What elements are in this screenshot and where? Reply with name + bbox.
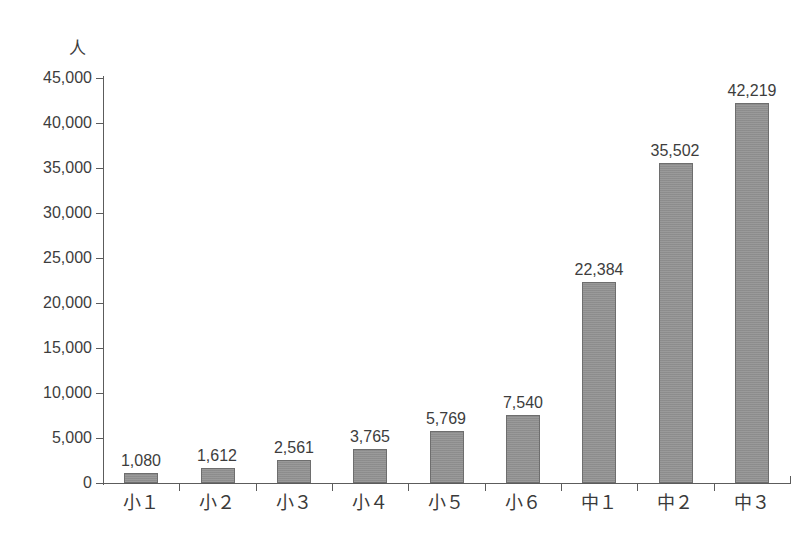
- x-axis-label: 小２: [179, 492, 255, 514]
- bar-value-label: 1,080: [103, 452, 179, 469]
- x-axis-line: [103, 483, 791, 484]
- bar: [430, 431, 464, 483]
- y-axis-unit-label: 人: [62, 38, 92, 58]
- x-axis-label: 小５: [408, 492, 484, 514]
- x-axis-tick: [561, 484, 562, 491]
- x-axis-end-tick: [790, 476, 791, 484]
- y-axis-tick-label-text: 15,000: [22, 340, 92, 356]
- y-axis-tick: [96, 258, 103, 259]
- bar: [277, 460, 311, 483]
- y-axis-tick: [96, 438, 103, 439]
- y-axis-tick-label-text: 20,000: [22, 295, 92, 311]
- y-axis-tick-label-text: 5,000: [22, 430, 92, 446]
- y-axis-tick-label-text: 10,000: [22, 385, 92, 401]
- x-axis-tick: [408, 484, 409, 491]
- x-axis-label: 中２: [637, 492, 713, 514]
- y-axis-tick-label: 35,000: [20, 160, 92, 176]
- bar-value-label: 22,384: [561, 261, 637, 278]
- y-axis-tick-label-text: 40,000: [22, 115, 92, 131]
- y-axis-tick-label: 25,000: [20, 250, 92, 266]
- y-axis-tick-label: 30,000: [20, 205, 92, 221]
- y-axis-tick: [96, 303, 103, 304]
- y-axis-tick-label-text: 35,000: [22, 160, 92, 176]
- y-axis-tick: [96, 483, 103, 484]
- x-axis-tick: [332, 484, 333, 491]
- y-axis-tick-label: 40,000: [20, 115, 92, 131]
- bar: [353, 449, 387, 483]
- x-axis-label: 小４: [332, 492, 408, 514]
- x-axis-label: 中３: [714, 492, 790, 514]
- y-axis-tick: [96, 393, 103, 394]
- y-axis-tick-label: 5,000: [20, 430, 92, 446]
- x-axis-tick: [179, 484, 180, 491]
- y-axis-tick-label: 10,000: [20, 385, 92, 401]
- y-axis-tick: [96, 78, 103, 79]
- y-axis-tick-label-text: 0: [22, 475, 92, 491]
- bar: [506, 415, 540, 483]
- x-axis-label: 小６: [485, 492, 561, 514]
- bar-chart: 人 05,00010,00015,00020,00025,00030,00035…: [0, 0, 811, 534]
- bar-value-label: 35,502: [637, 142, 713, 159]
- y-axis-tick-label-text: 30,000: [22, 205, 92, 221]
- bar: [124, 473, 158, 483]
- y-axis-tick-label-text: 45,000: [22, 70, 92, 86]
- x-axis-tick: [714, 484, 715, 491]
- bar-value-label: 1,612: [179, 447, 255, 464]
- y-axis-line: [103, 76, 104, 485]
- y-axis-tick-label: 15,000: [20, 340, 92, 356]
- y-axis-tick-label: 0: [20, 475, 92, 491]
- y-axis-tick-label-text: 25,000: [22, 250, 92, 266]
- y-axis-tick: [96, 168, 103, 169]
- bar: [735, 103, 769, 483]
- x-axis-tick: [485, 484, 486, 491]
- x-axis-label: 中１: [561, 492, 637, 514]
- bar-value-label: 5,769: [408, 410, 484, 427]
- x-axis-label: 小１: [103, 492, 179, 514]
- x-axis-tick: [256, 484, 257, 491]
- bar: [582, 282, 616, 483]
- y-axis-tick: [96, 348, 103, 349]
- x-axis-tick: [637, 484, 638, 491]
- clipped-caption: [150, 521, 670, 530]
- y-axis-tick: [96, 123, 103, 124]
- y-axis-tick-label: 45,000: [20, 70, 92, 86]
- bar: [201, 468, 235, 483]
- y-axis-tick: [96, 213, 103, 214]
- bar-value-label: 2,561: [256, 439, 332, 456]
- bar: [659, 163, 693, 483]
- bar-value-label: 42,219: [714, 82, 790, 99]
- y-axis-tick-label: 20,000: [20, 295, 92, 311]
- x-axis-label: 小３: [256, 492, 332, 514]
- bar-value-label: 7,540: [485, 394, 561, 411]
- bar-value-label: 3,765: [332, 428, 408, 445]
